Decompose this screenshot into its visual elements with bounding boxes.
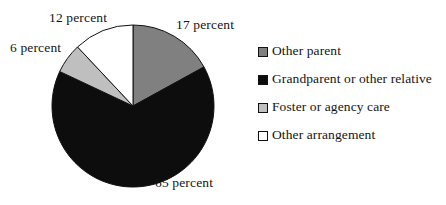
legend-label-other-arrangement: Other arrangement bbox=[272, 128, 375, 142]
legend-swatch-other-arrangement bbox=[258, 131, 268, 141]
legend-label-grandparent-or-other-relative: Grandparent or other relative bbox=[272, 72, 432, 86]
legend-item-foster-or-agency-care[interactable]: Foster or agency care bbox=[258, 100, 444, 128]
legend-label-other-parent: Other parent bbox=[272, 44, 341, 58]
pie-chart-figure: 12 percent 6 percent 17 percent 65 perce… bbox=[0, 0, 446, 205]
legend-label-foster-or-agency-care: Foster or agency care bbox=[272, 100, 390, 114]
slice-data-label-grandparent-or-other-relative: 65 percent bbox=[155, 176, 213, 190]
legend-item-other-parent[interactable]: Other parent bbox=[258, 44, 444, 72]
legend-swatch-foster-or-agency-care bbox=[258, 103, 268, 113]
pie-slice-group bbox=[52, 25, 214, 187]
slice-data-label-foster-or-agency-care: 6 percent bbox=[10, 41, 61, 55]
chart-legend: Other parentGrandparent or other relativ… bbox=[258, 44, 444, 156]
legend-swatch-other-parent bbox=[258, 47, 268, 57]
slice-data-label-other-arrangement: 12 percent bbox=[49, 11, 107, 25]
pie-plot-area: 12 percent 6 percent 17 percent 65 perce… bbox=[0, 0, 250, 205]
legend-swatch-grandparent-or-other-relative bbox=[258, 75, 268, 85]
slice-data-label-other-parent: 17 percent bbox=[176, 18, 234, 32]
legend-item-grandparent-or-other-relative[interactable]: Grandparent or other relative bbox=[258, 72, 444, 100]
legend-item-other-arrangement[interactable]: Other arrangement bbox=[258, 128, 444, 156]
